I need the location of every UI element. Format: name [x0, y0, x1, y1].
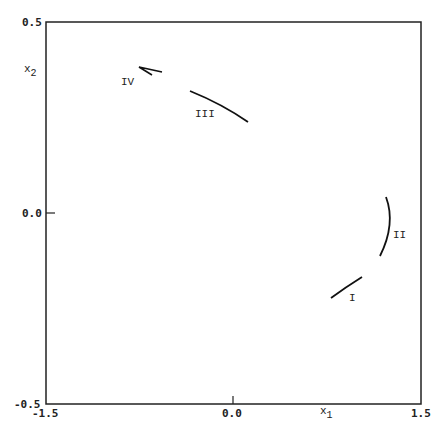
x-axis-label: x1 [320, 405, 333, 421]
label-II: II [393, 229, 406, 241]
label-III: III [195, 108, 215, 120]
label-IV: IV [121, 76, 135, 88]
plot-frame [46, 22, 421, 404]
x-tick-label-right: 1.5 [411, 407, 431, 420]
curve-II [380, 197, 390, 256]
y-tick-label-mid: 0.0 [22, 207, 42, 220]
phase-plot: 0.5 0.0 -0.5 -1.5 0.0 1.5 x2 x1 I II III… [0, 0, 446, 436]
y-tick-label-top: 0.5 [22, 16, 42, 29]
y-axis-label: x2 [24, 63, 37, 79]
label-I: I [349, 292, 356, 304]
x-tick-label-left: -1.5 [32, 407, 59, 420]
x-tick-label-mid: 0.0 [222, 407, 242, 420]
curve-IV [139, 67, 162, 75]
curve-I [331, 277, 362, 298]
